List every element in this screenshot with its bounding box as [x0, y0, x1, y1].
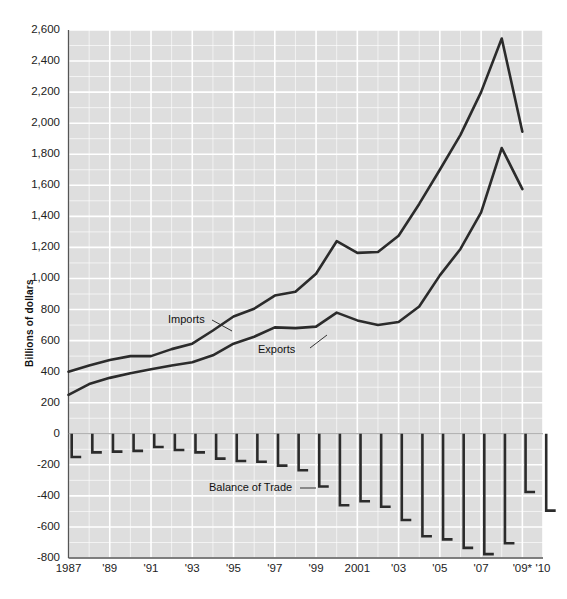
y-axis-tick-label: -400: [0, 490, 60, 502]
y-axis-tick-label: 1,200: [0, 241, 60, 253]
balance-bar: [546, 434, 556, 511]
y-axis-tick-label: 1,800: [0, 148, 60, 160]
balance-of-trade-label: Balance of Trade: [209, 482, 292, 493]
y-axis-tick-label: 1,400: [0, 210, 60, 222]
y-axis-tick-label: 2,600: [0, 24, 60, 36]
y-axis-tick-label: 2,400: [0, 55, 60, 67]
y-axis-tick-label: 400: [0, 366, 60, 378]
x-axis-tick-label: '10: [517, 563, 567, 575]
y-axis-tick-label: 1,600: [0, 179, 60, 191]
y-axis-tick-label: 0: [0, 428, 60, 440]
y-axis-tick-label: -200: [0, 459, 60, 471]
y-axis-tick-label: -600: [0, 521, 60, 533]
y-axis-tick-label: 2,200: [0, 86, 60, 98]
y-axis-tick-label: -800: [0, 552, 60, 564]
trade-chart-figure: 2,6002,4002,2002,0001,8001,6001,4001,200…: [0, 0, 567, 599]
y-axis-tick-label: 2,000: [0, 117, 60, 129]
y-axis-title: Billions of dollars: [24, 279, 35, 367]
imports-label: Imports: [168, 314, 205, 325]
chart-canvas: [0, 0, 567, 599]
y-axis-tick-label: 200: [0, 397, 60, 409]
exports-label: Exports: [258, 344, 295, 355]
